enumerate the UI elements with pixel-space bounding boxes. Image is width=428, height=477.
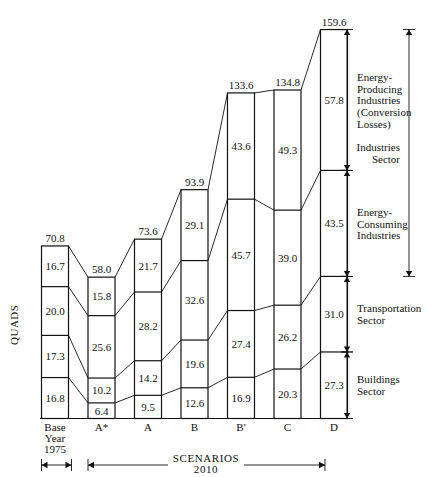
- y-axis-title-text: QUADS: [8, 305, 20, 345]
- segment-value-label: 27.3: [324, 379, 344, 391]
- arrow-head-left-icon: [319, 462, 325, 468]
- connector-line: [115, 239, 135, 277]
- category-label-line: A: [144, 421, 152, 433]
- category-label-line: B: [191, 421, 198, 433]
- bar-total-label: 73.6: [138, 225, 158, 237]
- category-label-6: C: [284, 421, 291, 433]
- sector-bracket-label-line: Sector: [357, 314, 385, 326]
- connector-line: [255, 90, 275, 93]
- arrow-head-up-icon: [406, 271, 412, 277]
- segment-value-label: 9.5: [141, 401, 155, 413]
- connector-line: [162, 340, 182, 361]
- sector-bracket-label-line: Sector: [357, 385, 385, 397]
- bottom-span-indicators: SCENARIOS2010: [42, 452, 326, 475]
- connector-line: [115, 361, 135, 378]
- sector-bracket-3: TransportationSector: [341, 276, 422, 352]
- arrow-head-left-icon: [66, 462, 72, 468]
- scenarios-year-label: 2010: [194, 463, 218, 475]
- connector-line: [115, 292, 135, 316]
- category-label-1: BaseYear1975: [44, 421, 67, 455]
- category-label-line: A*: [95, 421, 108, 433]
- category-label-2: A*: [95, 421, 108, 433]
- segment-value-label: 43.6: [231, 140, 251, 152]
- sector-bracket-label-line: Consuming: [357, 218, 408, 230]
- bar-total-label: 134.8: [275, 76, 300, 88]
- segment-value-label: 12.6: [185, 397, 205, 409]
- connector-line: [301, 170, 321, 210]
- category-label-7: D: [330, 421, 338, 433]
- segment-value-label: 17.3: [45, 350, 65, 362]
- segment-value-label: 27.4: [231, 338, 251, 350]
- category-label-line: 1975: [44, 443, 67, 455]
- segment-value-label: 14.2: [138, 372, 157, 384]
- category-label-5: B': [236, 421, 245, 433]
- connector-line: [69, 246, 89, 277]
- connector-line: [301, 352, 321, 369]
- segment-value-label: 49.3: [278, 144, 298, 156]
- connector-line: [162, 261, 182, 292]
- connector-line: [255, 369, 275, 377]
- bar-total-label: 58.0: [92, 263, 112, 275]
- segment-value-label: 20.3: [278, 388, 298, 400]
- segment-value-label: 19.6: [185, 358, 205, 370]
- bar-total-label: 93.9: [185, 176, 205, 188]
- connector-line: [208, 311, 228, 340]
- segment-value-label: 21.7: [138, 260, 158, 272]
- segment-value-label: 28.2: [138, 320, 157, 332]
- segment-value-label: 6.4: [95, 405, 109, 417]
- energy-quads-stacked-bar-chart: QUADS 16.817.320.016.770.86.410.225.615.…: [0, 0, 428, 477]
- arrow-head-right-icon: [88, 462, 94, 468]
- connector-line: [115, 395, 135, 403]
- base-year-span-indicator: [42, 459, 72, 471]
- connector-line: [255, 199, 275, 210]
- sector-bracket-label-line: Producing: [357, 83, 403, 95]
- connector-line: [162, 190, 182, 239]
- connector-line: [208, 93, 228, 190]
- industries-sector-label-line: Sector: [372, 153, 400, 165]
- arrow-head-down-icon: [406, 30, 412, 35]
- bar-total-label: 133.6: [229, 79, 254, 91]
- sector-bracket-label-line: Buildings: [357, 373, 400, 385]
- connector-line: [69, 287, 89, 316]
- connector-line: [69, 335, 89, 378]
- sector-bracket-4: BuildingsSector: [341, 352, 400, 419]
- segment-value-label: 20.0: [45, 305, 65, 317]
- segment-value-label: 26.2: [278, 331, 297, 343]
- segment-value-label: 45.7: [231, 249, 251, 261]
- category-label-line: C: [284, 421, 291, 433]
- y-axis-title: QUADS: [8, 305, 20, 345]
- category-label-3: A: [144, 421, 152, 433]
- segment-value-label: 32.6: [185, 294, 205, 306]
- segment-value-label: 15.8: [92, 290, 112, 302]
- category-label-4: B: [191, 421, 198, 433]
- bar-total-label: 159.6: [322, 16, 347, 28]
- bar-total-label: 70.8: [45, 232, 65, 244]
- segment-value-label: 43.5: [324, 217, 344, 229]
- connector-line: [301, 276, 321, 305]
- segment-value-label: 16.9: [231, 392, 251, 404]
- sector-bracket-label-line: Industries: [357, 94, 400, 106]
- sector-annotations-layer: Energy-ProducingIndustries(ConversionLos…: [341, 30, 422, 419]
- segment-value-label: 31.0: [324, 308, 344, 320]
- segment-value-label: 39.0: [278, 252, 298, 264]
- segment-value-label: 10.2: [92, 384, 111, 396]
- category-labels-layer: BaseYear1975A*ABB'CD: [44, 421, 338, 455]
- segment-value-label: 16.8: [45, 392, 65, 404]
- connector-line: [208, 377, 228, 387]
- connector-line: [301, 30, 321, 90]
- category-label-line: B': [236, 421, 245, 433]
- segment-value-label: 25.6: [92, 341, 112, 353]
- sector-bracket-label-line: Industries: [357, 229, 400, 241]
- connector-line: [255, 305, 275, 310]
- sector-bracket-label-line: Losses): [357, 118, 391, 131]
- industries-sector-label-line: Industries: [357, 141, 400, 153]
- sector-bracket-2: Energy-ConsumingIndustries: [341, 170, 408, 276]
- connector-line: [69, 378, 89, 403]
- arrow-head-right-icon: [42, 462, 48, 468]
- connector-line: [208, 199, 228, 260]
- sector-bracket-label-line: Energy-: [357, 71, 393, 83]
- sector-bracket-label-line: Energy-: [357, 206, 393, 218]
- category-label-line: D: [330, 421, 338, 433]
- segment-value-label: 29.1: [185, 219, 204, 231]
- segment-value-label: 16.7: [45, 260, 65, 272]
